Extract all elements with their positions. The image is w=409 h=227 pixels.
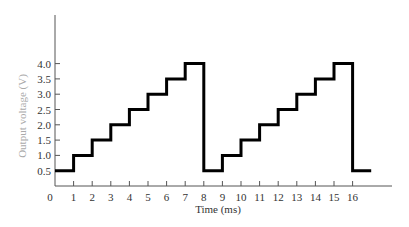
- x-tick-label: 7: [182, 191, 188, 203]
- x-tick-label: 4: [127, 191, 133, 203]
- x-tick-label: 6: [164, 191, 170, 203]
- x-tick-label: 11: [254, 191, 265, 203]
- y-tick-label: 2.5: [37, 104, 51, 116]
- x-tick-label: 14: [310, 191, 322, 203]
- y-tick-label: 1.0: [37, 149, 51, 161]
- x-tick-label: 12: [273, 191, 284, 203]
- x-tick-label: 3: [108, 191, 114, 203]
- y-tick-label: 3.0: [37, 88, 51, 100]
- x-tick-label: 0: [47, 191, 53, 203]
- y-tick-label: 3.5: [37, 73, 51, 85]
- chart-svg: 0123456789101112131415160.51.01.52.02.53…: [0, 0, 409, 227]
- x-tick-label: 15: [329, 191, 341, 203]
- x-tick-label: 16: [347, 191, 359, 203]
- x-axis-label: Time (ms): [195, 203, 241, 216]
- y-tick-label: 1.5: [37, 134, 51, 146]
- x-tick-label: 8: [201, 191, 207, 203]
- ticks: 0123456789101112131415160.51.01.52.02.53…: [37, 58, 358, 203]
- y-tick-label: 0.5: [37, 165, 51, 177]
- x-tick-label: 2: [89, 191, 95, 203]
- y-tick-label: 2.0: [37, 119, 51, 131]
- x-tick-label: 1: [71, 191, 77, 203]
- x-tick-label: 9: [220, 191, 226, 203]
- staircase-voltage-chart: 0123456789101112131415160.51.01.52.02.53…: [0, 0, 409, 227]
- x-tick-label: 5: [145, 191, 151, 203]
- x-tick-label: 10: [236, 191, 248, 203]
- waveform-line: [55, 64, 371, 171]
- y-axis-label: Output voltage (V): [16, 74, 29, 158]
- x-tick-label: 13: [291, 191, 303, 203]
- y-tick-label: 4.0: [37, 58, 51, 70]
